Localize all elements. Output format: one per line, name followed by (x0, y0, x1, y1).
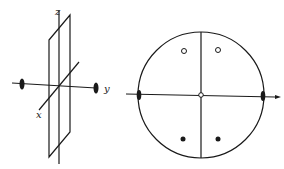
two-fold-axis-icon (20, 79, 25, 90)
two-fold-edge-icon (261, 91, 266, 101)
filled-pole-marker (216, 137, 221, 142)
left-3d-axes: z y x (12, 6, 110, 164)
arrow-head-icon (275, 95, 281, 99)
diagram-canvas: z y x (0, 0, 284, 169)
y-axis (12, 83, 96, 88)
stereographic-projection (126, 32, 281, 158)
z-axis-label: z (54, 6, 61, 17)
open-pole-marker (182, 49, 187, 54)
open-pole-marker (216, 48, 221, 53)
two-fold-edge-icon (137, 90, 142, 100)
filled-pole-marker (181, 137, 186, 142)
x-axis-label: x (36, 109, 42, 120)
center-marker (199, 93, 204, 98)
y-axis-label: y (103, 83, 110, 94)
two-fold-axis-icon (94, 83, 99, 94)
